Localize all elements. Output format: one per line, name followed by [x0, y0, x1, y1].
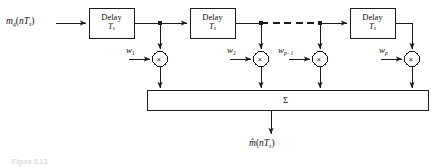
output-base: m̂	[249, 138, 256, 148]
input-base: m	[6, 16, 13, 26]
tap-node-2	[259, 21, 263, 25]
tap-node-3	[318, 21, 322, 25]
weight-w2-label: w2	[227, 46, 236, 56]
weight-wp-sub: p	[385, 50, 388, 56]
delay-box-1-label: Delay Ts	[89, 13, 134, 32]
delay-2-line2-sub: s	[214, 26, 216, 32]
multiplier-4-glyph: ×	[409, 55, 414, 64]
input-signal-label: mq(nTs)	[6, 17, 35, 28]
delay-box-2-label: Delay Ts	[190, 13, 235, 32]
output-paren-close: )	[271, 138, 274, 148]
tap-node-1	[158, 21, 162, 25]
weight-wp-1-label: wp−1	[278, 46, 293, 56]
delay-1-line2-sub: s	[113, 26, 115, 32]
multiplier-3-glyph: ×	[317, 55, 322, 64]
weight-w1-sub: 1	[132, 50, 135, 56]
figure-canvas: mq(nTs) Delay Ts Delay Ts Delay Ts × × ×…	[0, 0, 439, 167]
figure-caption: Figure 5.13	[12, 158, 47, 165]
weight-wp-1-sub: p−1	[284, 50, 293, 56]
input-paren-close: )	[31, 16, 34, 26]
multiplier-1-glyph: ×	[157, 55, 162, 64]
weight-w1-label: w1	[126, 46, 135, 56]
delay-box-3-label: Delay Ts	[350, 13, 395, 32]
multiplier-2-glyph: ×	[258, 55, 263, 64]
delay-3-line2-sub: s	[374, 26, 376, 32]
weight-wp-label: wp	[379, 46, 388, 56]
summing-junction-symbol: Σ	[283, 95, 288, 105]
output-signal-label: m̂(nTs)	[249, 139, 275, 150]
weight-w2-sub: 2	[233, 50, 236, 56]
